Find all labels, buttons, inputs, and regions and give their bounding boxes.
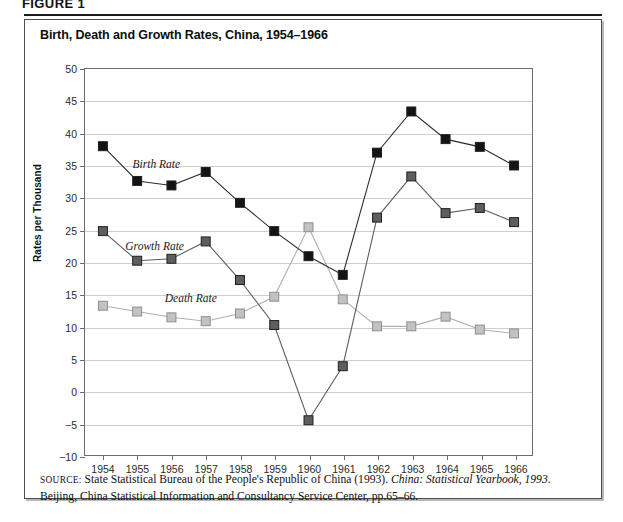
data-point-marker	[510, 161, 519, 170]
y-axis-tick-label: 25	[65, 225, 77, 237]
data-point-marker	[98, 227, 107, 236]
series-label-growth-rate: Growth Rate	[125, 240, 184, 252]
y-axis-tick-label: −10	[59, 451, 77, 463]
figure-top-rule	[24, 14, 602, 16]
y-axis-tick-label: 20	[65, 257, 77, 269]
data-point-marker	[270, 321, 279, 330]
plot-wrap: −10−505101520253035404550 19541955195619…	[84, 68, 533, 456]
x-axis-tick-mark	[206, 455, 207, 460]
source-note: SOURCE: State Statistical Bureau of the …	[40, 472, 585, 504]
data-point-marker	[235, 198, 244, 207]
y-axis-tick-mark	[80, 457, 85, 458]
source-prefix: SOURCE:	[40, 475, 82, 485]
data-point-marker	[338, 362, 347, 371]
data-point-marker	[98, 142, 107, 151]
y-axis-tick-label: 40	[65, 128, 77, 140]
x-axis-tick-mark	[378, 455, 379, 460]
data-point-marker	[475, 142, 484, 151]
y-axis-tick-label: 10	[65, 322, 77, 334]
data-point-marker	[235, 276, 244, 285]
data-point-marker	[475, 325, 484, 334]
x-axis-tick-mark	[447, 455, 448, 460]
x-axis-tick-mark	[103, 455, 104, 460]
source-text-before: State Statistical Bureau of the People's…	[82, 473, 391, 486]
y-axis-tick-label: 35	[65, 160, 77, 172]
data-point-marker	[304, 223, 313, 232]
y-axis-tick-label: 50	[65, 63, 77, 75]
data-point-marker	[201, 167, 210, 176]
y-axis-tick-label: 15	[65, 289, 77, 301]
series-layer	[85, 69, 532, 455]
y-axis-tick-label: 45	[65, 95, 77, 107]
data-point-marker	[201, 237, 210, 246]
data-point-marker	[441, 209, 450, 218]
y-axis-tick-label: 5	[71, 354, 77, 366]
x-axis-tick-mark	[344, 455, 345, 460]
data-point-marker	[373, 322, 382, 331]
x-axis-tick-mark	[482, 455, 483, 460]
data-point-marker	[510, 218, 519, 227]
data-point-marker	[133, 307, 142, 316]
data-point-marker	[441, 135, 450, 144]
figure-root: FIGURE 1 Birth, Death and Growth Rates, …	[0, 0, 623, 522]
x-axis-tick-mark	[275, 455, 276, 460]
data-point-marker	[270, 292, 279, 301]
data-point-marker	[338, 270, 347, 279]
data-point-marker	[441, 312, 450, 321]
data-point-marker	[133, 176, 142, 185]
x-axis-tick-mark	[137, 455, 138, 460]
data-point-marker	[407, 322, 416, 331]
data-point-marker	[270, 227, 279, 236]
data-point-marker	[304, 252, 313, 261]
series-label-death-rate: Death Rate	[165, 292, 217, 304]
series-growth-rate	[98, 172, 518, 425]
data-point-marker	[201, 317, 210, 326]
data-point-marker	[133, 256, 142, 265]
chart-title: Birth, Death and Growth Rates, China, 19…	[40, 28, 328, 42]
x-axis-tick-mark	[310, 455, 311, 460]
x-axis-tick-mark	[413, 455, 414, 460]
data-point-marker	[373, 148, 382, 157]
y-axis-tick-label: 30	[65, 192, 77, 204]
x-axis-tick-mark	[516, 455, 517, 460]
x-axis-tick-mark	[172, 455, 173, 460]
series-birth-rate	[98, 107, 518, 279]
data-point-marker	[167, 181, 176, 190]
data-point-marker	[510, 329, 519, 338]
data-point-marker	[98, 301, 107, 310]
data-point-marker	[475, 203, 484, 212]
figure-number-label: FIGURE 1	[22, 0, 85, 11]
x-axis-tick-mark	[241, 455, 242, 460]
data-point-marker	[338, 295, 347, 304]
y-axis-tick-label: −5	[65, 419, 77, 431]
data-point-marker	[407, 107, 416, 116]
data-point-marker	[235, 309, 244, 318]
data-point-marker	[304, 416, 313, 425]
data-point-marker	[407, 172, 416, 181]
y-axis-tick-label: 0	[71, 386, 77, 398]
data-point-marker	[373, 213, 382, 222]
data-point-marker	[167, 254, 176, 263]
plot-area: −10−505101520253035404550 19541955195619…	[84, 68, 533, 456]
data-point-marker	[167, 313, 176, 322]
source-italic-title: China: Statistical Yearbook, 1993	[391, 473, 548, 486]
series-label-birth-rate: Birth Rate	[133, 158, 181, 170]
y-axis-title: Rates per Thousand	[32, 164, 43, 262]
